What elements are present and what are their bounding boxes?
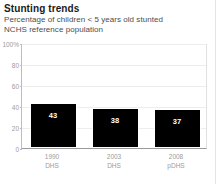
y-axis-tick-label: 80 xyxy=(12,62,19,69)
bar-slot: 38 xyxy=(92,45,139,148)
bar-slot: 37 xyxy=(154,45,201,148)
y-axis-tick-label: 20 xyxy=(12,125,19,132)
bar-value-label: 43 xyxy=(31,111,76,120)
bar: 37 xyxy=(154,109,201,148)
x-axis-label: 2003DHS xyxy=(83,152,145,170)
x-axis-label-survey: pDHS xyxy=(145,161,207,170)
chart-subtitle-line-1: Percentage of children < 5 years old stu… xyxy=(4,15,212,25)
chart-header: Stunting trends Percentage of children <… xyxy=(0,0,216,35)
y-axis-tickmark xyxy=(20,149,22,150)
bar-slot: 43 xyxy=(30,45,77,148)
stunting-trends-chart-card: Stunting trends Percentage of children <… xyxy=(0,0,216,184)
bar-value-label: 38 xyxy=(93,116,138,125)
x-axis-label: 2008pDHS xyxy=(145,152,207,170)
x-axis-label-survey: DHS xyxy=(21,161,83,170)
x-axis-labels: 1990DHS2003DHS2008pDHS xyxy=(21,152,207,180)
page-title: Stunting trends xyxy=(4,3,212,15)
plot-area: 020406080100% 433837 xyxy=(21,44,207,149)
y-axis-tick-label: 0 xyxy=(15,146,19,153)
bar: 38 xyxy=(92,108,139,148)
x-axis-label-survey: DHS xyxy=(83,161,145,170)
bar-series: 433837 xyxy=(22,45,206,148)
bar-value-label: 37 xyxy=(155,117,200,126)
x-axis-label-year: 2008 xyxy=(169,153,183,160)
x-axis-label-year: 2003 xyxy=(107,153,121,160)
y-axis-tick-label: 100% xyxy=(2,41,19,48)
chart-subtitle-line-2: NCHS reference population xyxy=(4,25,212,35)
chart-area: 020406080100% 433837 1990DHS2003DHS2008p… xyxy=(0,40,212,184)
y-axis-tick-label: 40 xyxy=(12,104,19,111)
x-axis-label-year: 1990 xyxy=(45,153,59,160)
bar: 43 xyxy=(30,103,77,148)
y-axis-tick-label: 60 xyxy=(12,83,19,90)
x-axis-label: 1990DHS xyxy=(21,152,83,170)
